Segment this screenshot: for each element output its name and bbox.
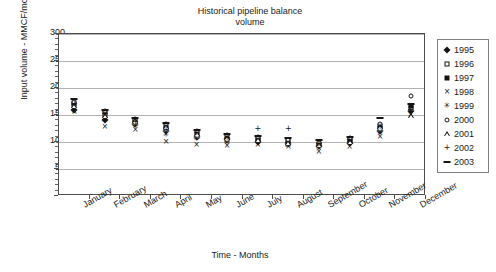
x-tick-label-july: July xyxy=(265,201,270,210)
legend-key-square-filled xyxy=(441,72,454,85)
data-point-2003-december xyxy=(407,103,414,105)
legend-key-star-asterisk: ✳ xyxy=(441,100,454,113)
legend-key-square-open xyxy=(441,58,454,71)
data-point-2002-september: + xyxy=(316,140,323,148)
legend: 199519961997×1998✳199920002001+20022003 xyxy=(437,39,489,173)
data-point-2002-january: + xyxy=(71,100,78,108)
marker-star-asterisk: ✳ xyxy=(444,102,451,110)
gridline-100 xyxy=(59,142,424,143)
plot-area: ××××××××××××✳✳✳✳✳✳✳✳✳✳✳✳++++++++++++ xyxy=(58,33,425,195)
legend-item-2001[interactable]: 2001 xyxy=(441,127,486,141)
gridline-250 xyxy=(59,61,424,62)
data-point-2001-august xyxy=(285,140,291,145)
marker-triangle-open xyxy=(444,131,450,136)
data-point-2002-november: + xyxy=(377,123,384,131)
x-tick-label-may: May xyxy=(204,201,209,210)
legend-item-1996[interactable]: 1996 xyxy=(441,57,486,71)
x-tick-label-september: September xyxy=(326,201,331,210)
data-point-2001-july xyxy=(255,137,261,142)
data-point-2003-august xyxy=(285,137,292,139)
x-tick-label-november: November xyxy=(387,201,392,210)
legend-label: 1998 xyxy=(454,87,474,97)
marker-square-filled xyxy=(445,75,450,80)
gridline-200 xyxy=(59,88,424,89)
data-point-2000-december xyxy=(408,94,413,99)
marker-square-open xyxy=(445,61,450,66)
x-tick-label-december: December xyxy=(418,201,423,210)
legend-key-plus: + xyxy=(441,142,454,155)
x-tick-label-august: August xyxy=(295,201,300,210)
marker-dash xyxy=(444,161,451,163)
legend-item-1995[interactable]: 1995 xyxy=(441,43,486,57)
x-tick-label-october: October xyxy=(357,201,362,210)
x-tick-label-june: June xyxy=(234,201,239,210)
legend-label: 1997 xyxy=(454,73,474,83)
gridline-50 xyxy=(59,169,424,170)
data-point-2003-june xyxy=(224,133,231,135)
x-axis-title: Time - Months xyxy=(150,250,330,260)
legend-item-2003[interactable]: 2003 xyxy=(441,155,486,169)
data-point-1998-february: × xyxy=(102,123,109,131)
data-point-1998-april: × xyxy=(163,138,170,146)
data-point-2003-july xyxy=(254,135,261,137)
y-axis-title: Input volume - MMCF/mo xyxy=(19,0,29,124)
marker-circle-open xyxy=(445,117,450,122)
gridline-150 xyxy=(59,115,424,116)
data-point-2001-december xyxy=(408,113,414,118)
legend-item-1997[interactable]: 1997 xyxy=(441,71,486,85)
gridline-300 xyxy=(59,34,424,35)
marker-plus: + xyxy=(444,144,451,152)
y-tick-mark-0 xyxy=(54,195,58,196)
legend-label: 2003 xyxy=(454,157,474,167)
data-point-2003-october xyxy=(346,136,353,138)
chart-screenshot: Historical pipeline balance volume Input… xyxy=(0,0,496,272)
legend-label: 2001 xyxy=(454,129,474,139)
data-point-2002-april: + xyxy=(163,126,170,134)
data-point-2003-may xyxy=(193,129,200,131)
legend-key-cross-x: × xyxy=(441,86,454,99)
legend-label: 1999 xyxy=(454,101,474,111)
legend-key-circle-open xyxy=(441,114,454,127)
data-point-2003-september xyxy=(315,139,322,141)
data-point-2003-november xyxy=(377,117,384,119)
data-point-2002-december: + xyxy=(407,106,414,114)
data-point-2002-july: + xyxy=(254,125,261,133)
legend-label: 2000 xyxy=(454,115,474,125)
data-point-2002-february: + xyxy=(102,110,109,118)
data-point-2003-january xyxy=(71,98,78,100)
data-point-2003-march xyxy=(132,117,139,119)
data-point-2002-march: + xyxy=(132,118,139,126)
legend-label: 1995 xyxy=(454,45,474,55)
legend-key-dash xyxy=(441,156,454,169)
marker-diamond-filled xyxy=(443,46,450,53)
data-point-2003-february xyxy=(101,109,108,111)
legend-item-1999[interactable]: ✳1999 xyxy=(441,99,486,113)
legend-item-2002[interactable]: +2002 xyxy=(441,141,486,155)
x-tick-label-january: January xyxy=(81,201,86,210)
legend-label: 2002 xyxy=(454,143,474,153)
chart-title: Historical pipeline balance volume xyxy=(120,6,380,28)
data-point-2003-april xyxy=(163,122,170,124)
marker-cross-x: × xyxy=(444,88,451,96)
legend-item-1998[interactable]: ×1998 xyxy=(441,85,486,99)
legend-label: 1996 xyxy=(454,59,474,69)
x-tick-label-march: March xyxy=(142,201,147,210)
data-point-2002-august: + xyxy=(285,125,292,133)
legend-key-triangle-open xyxy=(441,128,454,141)
legend-item-2000[interactable]: 2000 xyxy=(441,113,486,127)
legend-key-diamond-filled xyxy=(441,44,454,57)
x-tick-label-april: April xyxy=(173,201,178,210)
x-tick-label-february: February xyxy=(112,201,117,210)
